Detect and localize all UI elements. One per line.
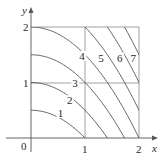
level-curve-4 [31,27,150,161]
curve-label-7: 7 [131,52,137,64]
curve-label-4: 4 [79,50,85,62]
curve-label-3: 3 [72,77,78,89]
origin-label: 0 [21,140,27,152]
level-curve-7 [31,0,150,78]
x-tick-2: 2 [136,143,142,155]
level-curve-3 [31,55,150,164]
contour-plot: 1234567 2 1 1 2 0 x y [0,0,165,164]
curve-label-2: 2 [67,94,73,106]
curve-label-1: 1 [58,107,64,119]
level-curve-1 [31,110,150,164]
curve-label-6: 6 [117,52,123,64]
y-tick-2: 2 [23,21,29,33]
x-tick-1: 1 [82,143,88,155]
y-tick-1: 1 [23,77,29,89]
level-curves [31,0,150,164]
y-axis-label: y [21,4,27,16]
curve-label-5: 5 [98,52,104,64]
x-axis-label: x [151,142,157,154]
